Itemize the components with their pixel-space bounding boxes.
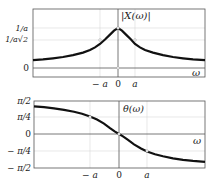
- magnitude-curve: [33, 28, 205, 60]
- peak-point: [117, 27, 120, 30]
- x-tick-a: a: [132, 79, 137, 89]
- magnitude-plot: |X(ω)| ω 1/a 1/a√2 0 − a 0 a: [5, 9, 205, 89]
- y-tick-1-over-a-root2: 1/a√2: [5, 35, 28, 44]
- phase-plot: θ(ω) ω π/2 π/4 0 − π/4 − π/2 − a 0 a: [7, 96, 205, 180]
- x-axis-label: ω: [192, 67, 200, 78]
- plot-frame: [33, 9, 205, 77]
- y-tick-1-over-a: 1/a: [15, 24, 28, 33]
- x-axis-label: ω: [193, 135, 201, 146]
- figure: |X(ω)| ω 1/a 1/a√2 0 − a 0 a θ(ω) ω π/2 …: [0, 0, 218, 187]
- x-tick-a: a: [144, 170, 149, 180]
- corner-point: [89, 116, 92, 119]
- half-power-point: [134, 39, 137, 42]
- corner-point: [146, 150, 149, 153]
- origin-point: [117, 67, 120, 70]
- x-tick-neg-a: − a: [82, 170, 98, 180]
- y-tick-zero: 0: [25, 129, 31, 139]
- y-tick-neg-pi-2: − π/2: [7, 163, 31, 173]
- x-tick-zero: 0: [116, 170, 122, 180]
- y-tick-neg-pi-4: − π/4: [7, 146, 31, 156]
- y-tick-pi-4: π/4: [16, 112, 31, 122]
- x-tick-neg-a: − a: [92, 79, 108, 89]
- origin-point: [118, 133, 121, 136]
- phase-title: θ(ω): [123, 103, 144, 114]
- x-tick-zero: 0: [115, 79, 121, 89]
- half-power-point: [99, 39, 102, 42]
- magnitude-title: |X(ω)|: [121, 10, 151, 22]
- y-tick-pi-2: π/2: [16, 96, 31, 106]
- y-tick-zero: 0: [23, 63, 29, 73]
